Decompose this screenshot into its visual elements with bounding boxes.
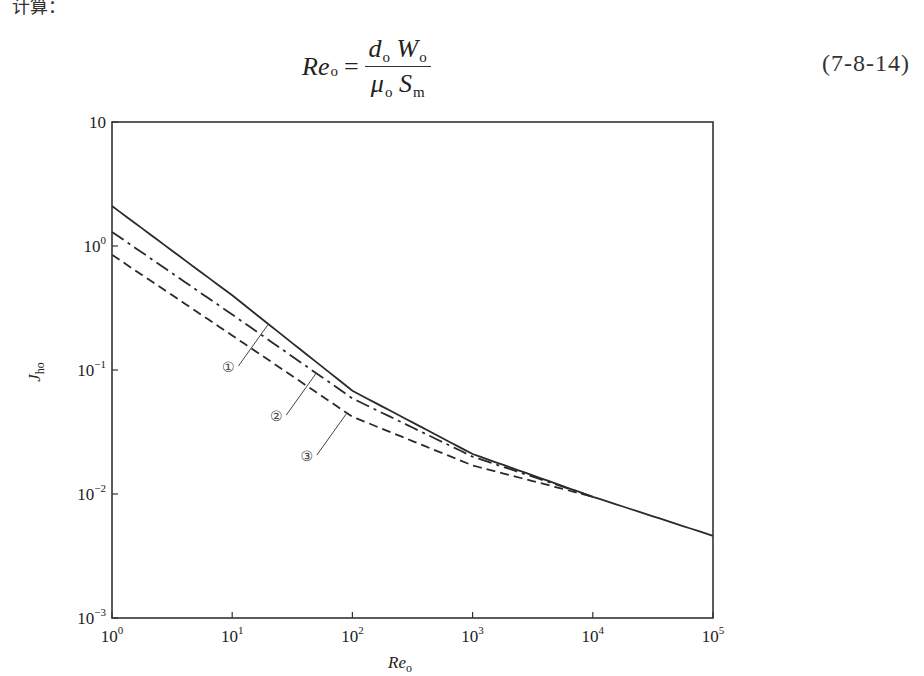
y-tick-label: 10−1 — [77, 358, 106, 380]
y-tick-label: 10−3 — [77, 606, 106, 628]
chart-series — [112, 206, 713, 536]
series-line-1 — [112, 206, 713, 536]
x-tick-label: 104 — [582, 624, 605, 646]
y-axis-label: Jho — [25, 362, 47, 382]
plot-frame — [112, 122, 713, 618]
jho-vs-re-chart: 1001011021031041051010010−110−210−3 ①②③ … — [0, 0, 924, 676]
callout-label-3: ③ — [301, 448, 314, 464]
x-tick-label: 103 — [461, 624, 484, 646]
y-tick-label: 10 — [89, 113, 106, 132]
x-axis-label: Reo — [387, 653, 412, 675]
callout-label-1: ① — [222, 359, 235, 375]
axis-ticks: 1001011021031041051010010−110−210−3 — [77, 113, 724, 646]
x-tick-label: 101 — [221, 624, 244, 646]
callout-leader-2 — [286, 373, 316, 415]
x-tick-label: 102 — [341, 624, 364, 646]
x-tick-label: 100 — [101, 624, 124, 646]
callout-label-2: ② — [270, 408, 283, 424]
y-tick-label: 100 — [84, 234, 107, 256]
x-tick-label: 105 — [702, 624, 725, 646]
series-line-3 — [112, 255, 593, 497]
y-tick-label: 10−2 — [77, 482, 106, 504]
callout-leader-3 — [317, 413, 347, 455]
chart-callouts: ①②③ — [222, 324, 347, 464]
series-line-2 — [112, 232, 593, 497]
